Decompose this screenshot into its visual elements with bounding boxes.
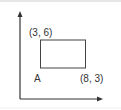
rectangle	[41, 40, 86, 68]
coordinate-diagram: (3, 6) A (8, 3)	[0, 2, 121, 110]
bottom-left-label: A	[34, 73, 41, 84]
x-axis-arrow-icon	[97, 97, 103, 102]
y-axis	[18, 11, 23, 99]
top-left-label: (3, 6)	[29, 27, 52, 38]
x-axis	[20, 97, 103, 102]
y-axis-arrow-icon	[18, 11, 23, 17]
diagram-canvas: (3, 6) A (8, 3)	[0, 0, 121, 110]
bottom-right-label: (8, 3)	[80, 73, 103, 84]
